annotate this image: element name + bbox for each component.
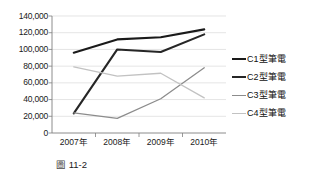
x-axis-tick-label: 2010年 <box>176 137 232 147</box>
legend-item-label: C1型筆電 <box>247 55 286 64</box>
legend-item[interactable]: C3型筆電 <box>232 86 318 104</box>
legend-line-icon <box>232 113 246 114</box>
legend-line-icon <box>232 58 246 60</box>
x-axis-tick-labels: 2007年2008年2009年2010年 <box>52 137 226 153</box>
legend-line-icon <box>232 95 246 96</box>
figure-line-chart: 140,000120,000100,00080,00060,00040,0002… <box>0 0 318 180</box>
legend-item[interactable]: C4型筆電 <box>232 104 318 122</box>
legend-line-icon <box>232 76 246 78</box>
figure-caption-number: 11-2 <box>69 159 87 170</box>
figure-caption-tag: 圖 <box>56 159 66 170</box>
chart-legend: C1型筆電C2型筆電C3型筆電C4型筆電 <box>232 50 318 122</box>
legend-item[interactable]: C2型筆電 <box>232 68 318 86</box>
chart-canvas <box>0 0 240 152</box>
legend-item-label: C3型筆電 <box>247 91 286 100</box>
figure-caption: 圖 11-2 <box>56 159 87 170</box>
legend-item-label: C2型筆電 <box>247 73 286 82</box>
legend-item-label: C4型筆電 <box>247 109 286 118</box>
chart-plot-region: 140,000120,000100,00080,00060,00040,0002… <box>0 0 240 152</box>
legend-item[interactable]: C1型筆電 <box>232 50 318 68</box>
